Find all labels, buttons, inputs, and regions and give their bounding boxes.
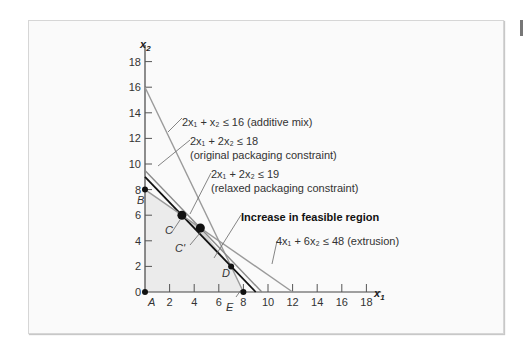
- x-tick-label: 10: [262, 296, 274, 308]
- relaxed-constraint-annotation: 2x₁ + 2x₂ ≤ 19: [211, 168, 279, 180]
- point-b: [142, 187, 148, 193]
- x-axis-label: x1: [373, 287, 385, 302]
- lp-chart: 24681012141618024681012141618x1x2ABCC'DE…: [0, 0, 524, 351]
- relaxed-constraint-note: (relaxed packaging constraint): [211, 182, 358, 194]
- leader-line: [214, 215, 241, 258]
- x-tick-label: 12: [286, 296, 298, 308]
- increase-feasible-annotation: Increase in feasible region: [241, 211, 379, 223]
- x-tick-label: 6: [216, 296, 222, 308]
- y-tick-label: 14: [129, 107, 141, 119]
- point-a: [142, 289, 148, 295]
- point-label: C: [165, 224, 173, 236]
- point-e: [240, 289, 246, 295]
- point-c: [177, 211, 186, 220]
- y-tick-label: 2: [135, 260, 141, 272]
- point-label: E: [226, 301, 234, 313]
- y-tick-label: 4: [135, 235, 141, 247]
- original-constraint-annotation: 2x₁ + 2x₂ ≤ 18: [190, 135, 258, 147]
- y-tick-label: 0: [135, 286, 141, 298]
- x-tick-label: 16: [336, 296, 348, 308]
- y-tick-label: 18: [129, 56, 141, 68]
- point-label: B: [137, 194, 144, 206]
- x-tick-label: 8: [240, 296, 246, 308]
- x-tick-label: 14: [311, 296, 323, 308]
- point-label: D: [222, 267, 230, 279]
- point-label: A: [147, 296, 155, 308]
- leader-line: [158, 140, 190, 166]
- point-label: C': [175, 242, 186, 254]
- x-tick-label: 4: [191, 296, 197, 308]
- leader-line: [168, 118, 182, 132]
- x-tick-label: 2: [167, 296, 173, 308]
- y-tick-label: 6: [135, 209, 141, 221]
- additive-mix-annotation: 2x₁ + x₂ ≤ 16 (additive mix): [182, 116, 312, 128]
- y-tick-label: 16: [129, 81, 141, 93]
- x-tick-label: 18: [360, 296, 372, 308]
- x-axis-subscript: 1: [380, 293, 385, 302]
- y-tick-label: 10: [129, 158, 141, 170]
- extrusion-annotation: 4x₁ + 6x₂ ≤ 48 (extrusion): [276, 235, 399, 247]
- leader-line: [190, 173, 211, 214]
- y-tick-label: 12: [129, 132, 141, 144]
- point-c-prime: [196, 224, 205, 233]
- original-constraint-note: (original packaging constraint): [190, 149, 337, 161]
- y-axis-subscript: 2: [145, 44, 151, 53]
